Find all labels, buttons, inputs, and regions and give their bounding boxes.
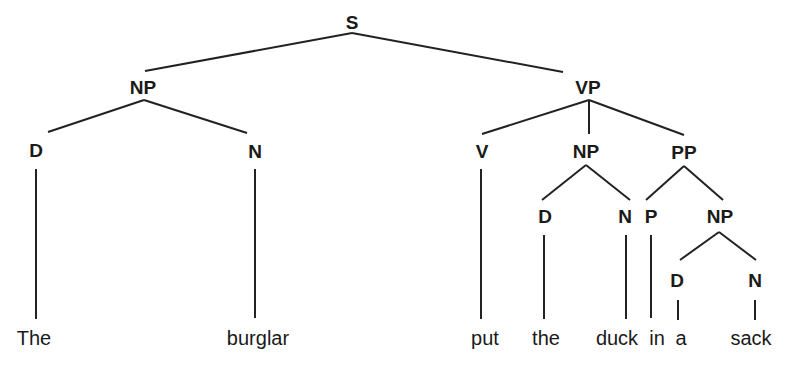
word-burglar: burglar: [227, 327, 290, 349]
edge-pp-p: [646, 166, 684, 200]
node-d-object: D: [538, 206, 552, 227]
edge-vp-pp: [589, 100, 684, 135]
edge-np2-d: [542, 165, 586, 200]
node-np-pp: NP: [707, 206, 734, 227]
node-np-subject: NP: [130, 77, 157, 98]
edge-np3-d: [680, 232, 719, 260]
node-n-subject: N: [248, 141, 262, 162]
edge-s-vp: [352, 33, 563, 72]
word-in: in: [649, 327, 665, 349]
edge-vp-v: [482, 100, 589, 134]
node-np-object: NP: [573, 141, 600, 162]
node-vp: VP: [575, 77, 601, 98]
node-n-object: N: [618, 206, 632, 227]
node-s: S: [346, 12, 359, 33]
edge-np-d: [48, 100, 144, 132]
leaf-words: The burglar put the duck in a sack: [17, 327, 773, 349]
edge-s-np: [145, 33, 352, 71]
edge-np-n: [144, 100, 247, 133]
node-d-subject: D: [29, 140, 43, 161]
node-n-pp: N: [748, 270, 762, 291]
word-duck: duck: [596, 327, 639, 349]
node-d-pp: D: [670, 270, 684, 291]
edge-pp-np3: [684, 166, 723, 200]
syntax-tree: S NP D N VP V NP PP D N P NP D N The bur…: [0, 0, 787, 371]
word-sack: sack: [730, 327, 772, 349]
word-a: a: [675, 327, 687, 349]
node-pp: PP: [671, 142, 697, 163]
edge-np2-n: [586, 165, 630, 200]
word-put: put: [471, 327, 499, 349]
node-p: P: [645, 206, 658, 227]
word-the-2: the: [532, 327, 560, 349]
edge-np3-n: [719, 232, 756, 260]
word-the: The: [17, 327, 51, 349]
node-v: V: [476, 141, 489, 162]
